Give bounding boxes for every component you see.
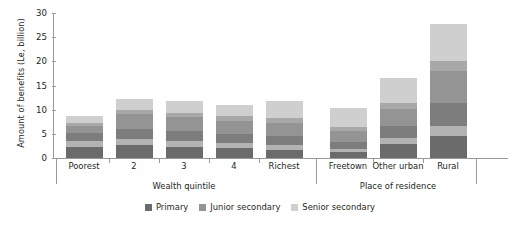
bar-rural[interactable] [430,24,467,158]
bar-freetown[interactable] [330,108,367,158]
group-boundary [56,158,57,184]
bar-poorest[interactable] [66,115,103,158]
bar-segment [166,101,203,113]
y-tick-label: 25 [36,32,47,42]
bar-segment [430,71,467,104]
bar-segment [380,78,417,104]
bar-segment [66,147,103,158]
bar-3[interactable] [166,101,203,158]
bar-segment [330,142,367,149]
bar-segment [116,99,153,110]
x-group-label: Place of residence [360,181,436,191]
bar-segment [216,121,253,134]
bar-segment [430,61,467,71]
bar-richest[interactable] [266,101,303,158]
bar-4[interactable] [216,105,253,158]
x-category-label: Richest [269,161,300,171]
x-tick-mark [109,158,110,163]
plot-area: 051015202530 Poorest234RichestFreetownOt… [53,13,508,158]
bar-segment [216,148,253,158]
bar-segment [216,105,253,117]
bar-segment [330,131,367,141]
x-category-label: Poorest [68,161,99,171]
bar-2[interactable] [116,99,153,158]
y-tick-label: 10 [36,105,47,115]
bar-segment [330,108,367,127]
bar-segment [66,133,103,140]
bar-segment [430,103,467,125]
legend-item[interactable]: Primary [145,202,188,212]
bar-segment [430,126,467,136]
bar-segment [166,117,203,131]
x-category-label: Freetown [329,161,367,171]
bar-segment [116,114,153,129]
x-axis-line [53,158,508,159]
bar-series-container [53,13,508,158]
x-tick-mark [209,158,210,163]
legend-item[interactable]: Senior secondary [291,202,375,212]
x-category-label: Rural [437,161,459,171]
legend-label: Primary [156,202,188,212]
legend-item[interactable]: Junior secondary [199,202,280,212]
bar-segment [166,147,203,158]
legend-swatch-icon [145,204,152,211]
benefits-incidence-chart: Amount of benefits (Le, billion) 0510152… [0,0,520,226]
bar-segment [266,123,303,136]
legend-label: Senior secondary [302,202,375,212]
bar-segment [330,152,367,158]
group-boundary [476,158,477,184]
x-category-label: 3 [181,161,186,171]
bar-segment [216,134,253,143]
bar-segment [116,139,153,146]
y-tick-label: 20 [36,56,47,66]
bar-segment [380,126,417,138]
bar-segment [116,145,153,158]
chart-legend: PrimaryJunior secondarySenior secondary [0,202,520,212]
group-separator [316,158,317,184]
bar-segment [430,24,467,61]
bar-other-urban[interactable] [380,78,417,158]
bar-segment [380,144,417,158]
y-tick-label: 5 [42,129,47,139]
bar-segment [66,116,103,123]
x-category-label: Other urban [373,161,424,171]
x-category-label: 2 [131,161,136,171]
y-axis-title: Amount of benefits (Le, billion) [16,8,26,158]
x-tick-mark [259,158,260,163]
bar-segment [266,136,303,145]
legend-label: Junior secondary [210,202,280,212]
legend-swatch-icon [291,204,298,211]
x-category-label: 4 [231,161,236,171]
bar-segment [66,126,103,134]
y-tick-label: 15 [36,81,47,91]
x-tick-mark [159,158,160,163]
legend-swatch-icon [199,204,206,211]
bar-segment [166,131,203,141]
y-tick-label: 0 [42,153,47,163]
bar-segment [116,129,153,139]
bar-segment [266,150,303,158]
x-group-label: Wealth quintile [152,181,215,191]
bar-segment [266,101,303,118]
y-tick-label: 30 [36,8,47,18]
bar-segment [430,136,467,158]
bar-segment [380,109,417,126]
